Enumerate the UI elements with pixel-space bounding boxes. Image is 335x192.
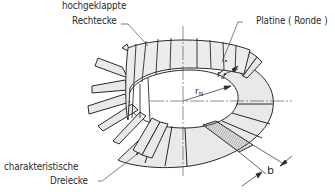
symbol-outer-radius: ra — [217, 69, 224, 80]
symbol-inner-radius: rN — [195, 86, 203, 97]
label-characteristic-triangles-line1: charakteristische — [4, 161, 78, 172]
blank-marker-dot — [225, 60, 227, 62]
label-blank: Platine ( Ronde ) — [256, 15, 327, 26]
symbol-width-b: b — [267, 164, 274, 177]
width-b-dimension — [239, 145, 292, 186]
outer-radius-subscript: a — [221, 73, 225, 80]
label-characteristic-triangles-line2: Dreiecke — [50, 175, 88, 186]
label-folded-rectangles-line1: hochgeklappte — [62, 0, 126, 11]
triangle-marker-dot — [136, 153, 138, 155]
inner-radius-subscript: N — [199, 90, 204, 97]
label-folded-rectangles-line2: Rechtecke — [72, 15, 117, 26]
